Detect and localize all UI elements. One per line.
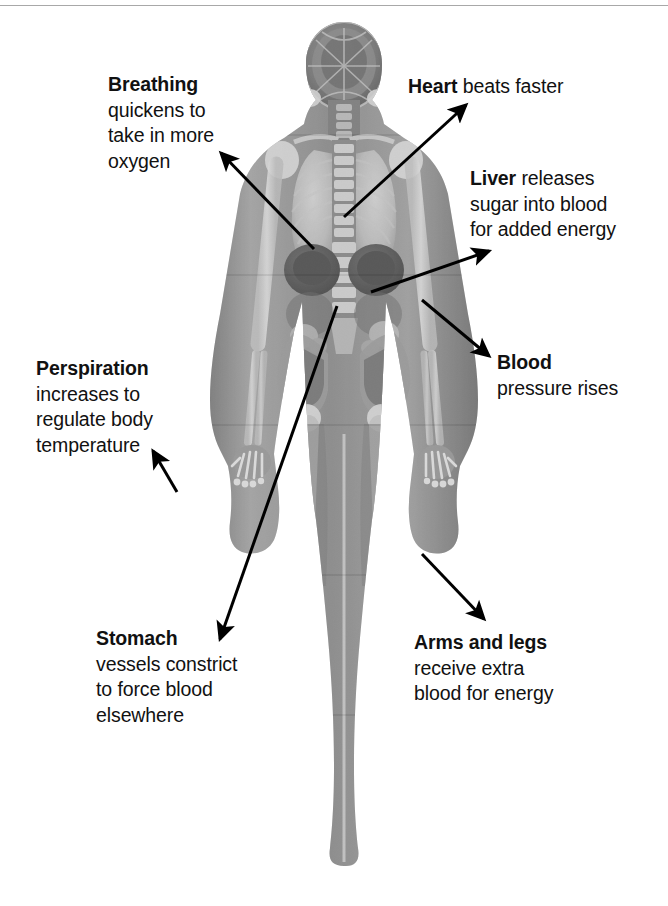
callout-liver-text: releases [516,167,594,189]
callout-breathing-line-2: take in more [108,123,214,149]
callout-stomach-lead: Stomach [96,627,178,649]
callout-perspiration-line-1: increases to [36,382,153,408]
callout-blood: Blood pressure rises [497,350,618,401]
callout-perspiration-lead: Perspiration [36,357,149,379]
callout-perspiration-line-2: regulate body [36,407,153,433]
callout-stomach-line-2: to force blood [96,677,237,703]
stomach-arrow [220,306,337,639]
callout-liver-lead: Liver [470,167,516,189]
callout-breathing: Breathing quickens to take in more oxyge… [108,72,214,174]
callout-arms-and-legs-lead: Arms and legs [414,631,547,653]
callout-breathing-lead: Breathing [108,73,198,95]
callout-liver: Liver releases sugar into blood for adde… [470,166,616,243]
callout-liver-line-1: sugar into blood [470,192,616,218]
liver-arrow [371,251,489,292]
arms-and-legs-arrow [422,554,484,619]
callout-heart: Heart beats faster [408,74,563,100]
callout-perspiration: Perspiration increases to regulate body … [36,356,153,458]
callout-breathing-line-1: quickens to [108,98,214,124]
heart-arrow [344,105,466,217]
breathing-arrow [221,153,314,249]
callout-blood-lead: Blood [497,351,552,373]
blood-arrow [422,300,489,356]
callout-breathing-line-3: oxygen [108,149,214,175]
callout-arms-and-legs-line-1: receive extra [414,656,553,682]
perspiration-arrow [153,451,177,492]
callout-stomach-line-3: elsewhere [96,703,237,729]
callout-perspiration-line-3: temperature [36,433,153,459]
callout-arms-and-legs-line-2: blood for energy [414,681,553,707]
callout-heart-text: beats faster [457,75,563,97]
callout-arms-and-legs: Arms and legs receive extra blood for en… [414,630,553,707]
callout-stomach: Stomach vessels constrict to force blood… [96,626,237,728]
callout-blood-line-1: pressure rises [497,376,618,402]
stress-response-figure: Breathing quickens to take in more oxyge… [0,0,668,906]
callout-stomach-line-1: vessels constrict [96,652,237,678]
callout-liver-line-2: for added energy [470,217,616,243]
callout-heart-lead: Heart [408,75,457,97]
